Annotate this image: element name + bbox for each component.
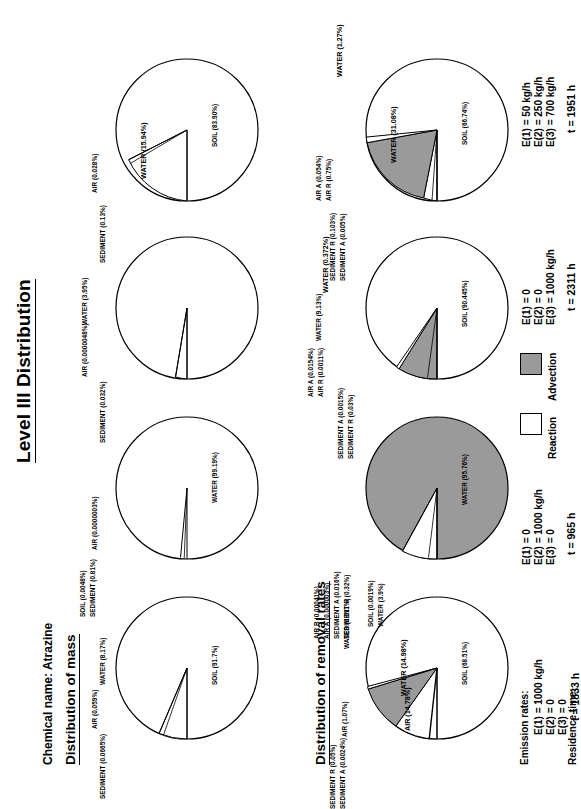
emission-col1-e2: E(2) = 0: [546, 699, 557, 735]
pie-label-mass-3-water: WATER (3.95%): [82, 278, 89, 325]
pie-label-removal-1-water-adv: WATER (14.98%): [400, 639, 408, 696]
emission-col2-e1: E(1) = 0: [522, 529, 533, 565]
pie-label-mass-2-air: AIR (0.0000003%): [92, 496, 99, 550]
pie-label-removal-4-sediment-r: SEDIMENT R (0.103%): [330, 213, 337, 281]
pie-chart-removal-3: [362, 233, 512, 383]
legend-label-reaction: Reaction: [548, 417, 559, 459]
legend-label-advection: Advection: [548, 353, 559, 401]
pie-chart-removal-4: [362, 55, 512, 205]
emission-col4-e1: E(1) = 50 kg/h: [522, 82, 533, 147]
pie-chart-mass-3: [112, 233, 262, 383]
pie-label-removal-3-air-r: AIR R (0.0011%): [318, 348, 325, 397]
pie-label-mass-1-sediment: SEDIMENT (0.0665%): [100, 734, 107, 799]
emission-rates-label: Emission rates:: [520, 691, 531, 765]
pie-label-mass-1-soil: SOIL (91.7%): [212, 645, 219, 685]
pie-label-mass-4-water: WATER (15.94%): [140, 122, 148, 179]
section-distribution-of-mass: Distribution of mass: [64, 634, 78, 765]
emission-col1-e3: E(3) = 0: [558, 699, 569, 735]
pie-label-removal-4-air-a: AIR A (0.054%): [316, 156, 323, 201]
emission-col4-e3: E(3) = 700 kg/h: [546, 77, 557, 147]
pie-label-removal-2-air-a: AIR A (0.000003%): [324, 583, 331, 639]
pie-label-removal-1-air-small: AIR (1.07%): [342, 701, 349, 737]
pie-label-removal-3-air-a: AIR A (0.0154%): [308, 348, 315, 397]
legend-swatch-advection: [520, 353, 542, 375]
pie-label-removal-2-water: WATER (95.76%): [462, 454, 469, 505]
pie-label-removal-1-soil: SOIL (68.51%): [462, 642, 469, 685]
emission-col2-e2: E(2) = 1000 kg/h: [534, 489, 545, 565]
pie-label-removal-4-soil: SOIL (66.74%): [462, 102, 469, 145]
pie-label-removal-3-sediment-a: SEDIMENT A (0.0015%): [338, 388, 345, 459]
pie-label-removal-2-water-small: WATER (3.9%): [378, 583, 385, 627]
residence-time-col2: t = 965 h: [566, 513, 577, 555]
emission-col2-e3: E(3) = 0: [546, 529, 557, 565]
pie-label-removal-4-water: WATER (31.08%): [390, 106, 398, 163]
pie-chart-mass-2: [112, 413, 262, 563]
pie-label-removal-4-water-small: WATER (1.27%): [336, 24, 344, 77]
emission-col4-e2: E(2) = 250 kg/h: [534, 77, 545, 147]
emission-col3-e1: E(1) = 0: [522, 289, 533, 325]
pie-label-mass-3-sediment: SEDIMENT (0.032%): [100, 381, 107, 443]
pie-label-removal-2-air-r: AIR R (0.00041%): [314, 586, 321, 639]
page-title: Level III Distribution: [14, 279, 34, 463]
emission-col1-e1: E(1) = 1000 kg/h: [534, 659, 545, 735]
pie-label-mass-4-air: AIR (0.028%): [92, 154, 99, 193]
pie-label-removal-3-water: WATER (9.13%): [316, 294, 323, 341]
emission-col3-e2: E(2) = 0: [534, 289, 545, 325]
pie-label-removal-3-sediment-r: SEDIMENT R (0.03%): [348, 395, 355, 459]
pie-label-mass-4-sediment: SEDIMENT (0.13%): [100, 205, 107, 263]
pie-label-mass-1-air: AIR (0.059%): [92, 690, 99, 729]
pie-chart-mass-4: [112, 55, 262, 205]
pie-label-removal-2-sediment-r: SEDIMENT R (0.32%): [344, 575, 351, 639]
pie-label-mass-2-soil: SOIL (0.0048%): [80, 570, 87, 617]
pie-label-mass-2-water: WATER (99.19%): [212, 452, 219, 503]
pie-label-mass-1-water: WATER (8.17%): [100, 638, 107, 685]
pie-label-removal-3-soil: SOIL (90.445%): [462, 280, 469, 327]
pie-label-removal-2-soil: SOIL (0.0019%): [368, 580, 375, 627]
emission-col3-e3: E(3) = 1000 kg/h: [546, 249, 557, 325]
pie-label-mass-2-sediment: SEDIMENT (0.81%): [90, 559, 97, 617]
residence-time-col3: t = 2311 h: [566, 263, 577, 311]
pie-label-mass-3-air: AIR (0.0000048%): [82, 323, 89, 377]
pie-chart-mass-1: [112, 593, 262, 743]
pie-chart-removal-2: [362, 413, 512, 563]
pie-label-removal-1-sediment-a: SEDIMENT A (0.0024%): [340, 738, 347, 809]
legend-swatch-reaction: [520, 413, 542, 435]
pie-label-mass-4-soil: SOIL (83.90%): [212, 104, 219, 147]
pie-label-removal-1-sediment-r: SEDIMENT R (0.05%): [330, 745, 337, 809]
chemical-name: Chemical name: Atrazine: [42, 623, 55, 765]
pie-label-removal-4-air-r: AIR R (0.75%): [326, 159, 333, 201]
residence-time-col4: t = 1951 h: [566, 85, 577, 133]
pie-label-removal-4-sediment-a: SEDIMENT A (0.005%): [340, 213, 347, 281]
residence-time-col1: t = 1833 h: [570, 673, 581, 721]
pie-label-removal-2-sediment-a: SEDIMENT A (0.016%): [334, 571, 341, 639]
